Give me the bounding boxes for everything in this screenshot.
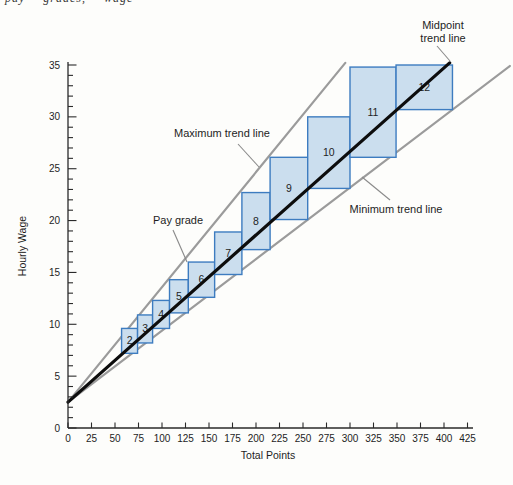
x-tick-label: 50	[109, 433, 121, 444]
midpoint-trend-line-label: Midpoint	[422, 19, 464, 31]
x-tick-label: 250	[295, 433, 312, 444]
x-tick-label: 325	[365, 433, 382, 444]
pay-structure-figure: 2345678910111202550751001251501752002252…	[0, 6, 513, 485]
x-tick-label: 300	[342, 433, 359, 444]
pay-grade-number-11: 11	[368, 106, 379, 118]
x-tick-label: 125	[177, 433, 194, 444]
x-tick-label: 0	[65, 433, 71, 444]
midpoint-trend-line-label-leader-line	[437, 46, 450, 61]
pay-grade-label-leader-line	[173, 230, 187, 262]
y-tick-label: 35	[49, 60, 61, 71]
x-tick-label: 225	[271, 433, 288, 444]
x-tick-label: 400	[436, 433, 453, 444]
pay-structure-chart: 2345678910111202550751001251501752002252…	[0, 6, 513, 485]
y-axis-title: Hourly Wage	[16, 216, 28, 276]
y-tick-label: 15	[49, 267, 61, 278]
pay-grade-number-9: 9	[286, 182, 292, 194]
x-tick-label: 275	[318, 433, 335, 444]
pay-grade-number-10: 10	[323, 146, 335, 158]
y-tick-label: 30	[49, 111, 61, 122]
x-tick-label: 75	[133, 433, 145, 444]
minimum-trend-line-label-leader-line	[362, 177, 390, 200]
x-tick-label: 200	[248, 433, 265, 444]
x-tick-label: 425	[459, 433, 476, 444]
axes: 0255075100125150175200225250275300325350…	[16, 60, 476, 462]
maximum-trend-line-label-leader-line	[238, 144, 259, 167]
maximum-trend-line	[68, 63, 345, 402]
x-tick-label: 25	[86, 433, 98, 444]
x-tick-label: 100	[154, 433, 171, 444]
y-tick-label: 5	[54, 371, 60, 382]
midpoint-trend-line	[68, 63, 450, 402]
y-tick-label: 20	[49, 215, 61, 226]
maximum-trend-line-label: Maximum trend line	[174, 127, 270, 139]
x-tick-label: 350	[389, 433, 406, 444]
x-tick-label: 175	[224, 433, 241, 444]
minimum-trend-line-label: Minimum trend line	[350, 203, 443, 215]
x-axis-title: Total Points	[241, 449, 295, 461]
x-tick-label: 150	[201, 433, 218, 444]
y-tick-label: 10	[49, 319, 61, 330]
y-tick-label: 0	[54, 423, 60, 434]
pay-grade-label: Pay grade	[153, 214, 203, 226]
midpoint-trend-line-label: trend line	[420, 32, 465, 44]
x-tick-label: 375	[412, 433, 429, 444]
pay-grade-number-8: 8	[253, 215, 259, 227]
y-tick-label: 25	[49, 163, 61, 174]
